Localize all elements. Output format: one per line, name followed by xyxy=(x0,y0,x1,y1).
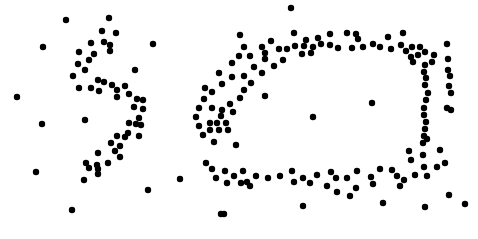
scatter-point xyxy=(268,38,274,44)
scatter-point xyxy=(360,44,366,50)
scatter-point xyxy=(214,120,220,126)
scatter-point xyxy=(229,60,235,66)
scatter-point xyxy=(114,87,120,93)
scatter-point xyxy=(126,120,132,126)
scatter-point xyxy=(225,127,231,133)
scatter-point xyxy=(33,169,39,175)
scatter-point xyxy=(203,160,209,166)
scatter-point xyxy=(354,168,360,174)
scatter-plot-canvas xyxy=(0,0,478,239)
scatter-point xyxy=(227,101,233,107)
scatter-point xyxy=(408,157,414,163)
scatter-point xyxy=(310,44,316,50)
scatter-point xyxy=(247,183,253,189)
scatter-point xyxy=(422,126,428,132)
scatter-point xyxy=(101,39,107,45)
scatter-point xyxy=(131,104,137,110)
scatter-point xyxy=(81,177,87,183)
scatter-point xyxy=(107,42,113,48)
scatter-point xyxy=(280,57,286,63)
scatter-point xyxy=(196,123,202,129)
scatter-point xyxy=(288,5,294,11)
scatter-point xyxy=(76,49,82,55)
scatter-point xyxy=(315,35,321,41)
scatter-point xyxy=(241,87,247,93)
scatter-point xyxy=(39,121,45,127)
scatter-point xyxy=(444,41,450,47)
scatter-point xyxy=(262,56,268,62)
scatter-point xyxy=(14,94,20,100)
scatter-point xyxy=(308,50,314,56)
scatter-point xyxy=(221,211,227,217)
scatter-point xyxy=(431,52,437,58)
scatter-point xyxy=(318,41,324,47)
scatter-point xyxy=(394,173,400,179)
scatter-point xyxy=(448,90,454,96)
scatter-point xyxy=(196,105,202,111)
scatter-point xyxy=(136,133,142,139)
scatter-point xyxy=(241,73,247,79)
scatter-point xyxy=(421,69,427,75)
scatter-point xyxy=(335,45,341,51)
scatter-point xyxy=(136,115,142,121)
scatter-point xyxy=(434,164,440,170)
scatter-point xyxy=(219,81,225,87)
scatter-point xyxy=(403,48,409,54)
scatter-point xyxy=(389,167,395,173)
scatter-point xyxy=(91,51,97,57)
scatter-point xyxy=(344,175,350,181)
scatter-point xyxy=(117,154,123,160)
scatter-point xyxy=(193,114,199,120)
scatter-point xyxy=(291,30,297,36)
scatter-point xyxy=(209,89,215,95)
scatter-point xyxy=(236,53,242,59)
scatter-point xyxy=(200,132,206,138)
scatter-point xyxy=(289,168,295,174)
scatter-point xyxy=(303,37,309,43)
scatter-point xyxy=(88,85,94,91)
scatter-point xyxy=(284,46,290,52)
scatter-point xyxy=(445,67,451,73)
scatter-point xyxy=(420,140,426,146)
scatter-point xyxy=(259,70,265,76)
scatter-point xyxy=(370,41,376,47)
scatter-point xyxy=(410,59,416,65)
scatter-point xyxy=(86,165,92,171)
scatter-point xyxy=(276,46,282,52)
scatter-point xyxy=(271,63,277,69)
scatter-point xyxy=(377,44,383,50)
scatter-point xyxy=(462,201,468,207)
scatter-point xyxy=(113,30,119,36)
scatter-point xyxy=(406,148,412,154)
scatter-point xyxy=(425,90,431,96)
scatter-point xyxy=(240,168,246,174)
scatter-point xyxy=(218,113,224,119)
scatter-point xyxy=(108,140,114,146)
scatter-point xyxy=(109,82,115,88)
scatter-point xyxy=(82,67,88,73)
scatter-point xyxy=(370,181,376,187)
scatter-point xyxy=(442,160,448,166)
scatter-point xyxy=(106,15,112,21)
scatter-point xyxy=(216,127,222,133)
scatter-point xyxy=(224,180,230,186)
scatter-point xyxy=(150,41,156,47)
scatter-point xyxy=(82,117,88,123)
scatter-point xyxy=(209,166,215,172)
scatter-point xyxy=(132,67,138,73)
scatter-point xyxy=(88,40,94,46)
scatter-point xyxy=(140,97,146,103)
scatter-point xyxy=(216,70,222,76)
scatter-point xyxy=(353,185,359,191)
scatter-point xyxy=(101,79,107,85)
scatter-point xyxy=(327,31,333,37)
scatter-point xyxy=(107,48,113,54)
scatter-point xyxy=(207,120,213,126)
scatter-point xyxy=(301,43,307,49)
scatter-point xyxy=(211,139,217,145)
scatter-point xyxy=(241,44,247,50)
scatter-point xyxy=(96,88,102,94)
scatter-point xyxy=(333,175,339,181)
scatter-point xyxy=(75,61,81,67)
scatter-point xyxy=(177,176,183,182)
